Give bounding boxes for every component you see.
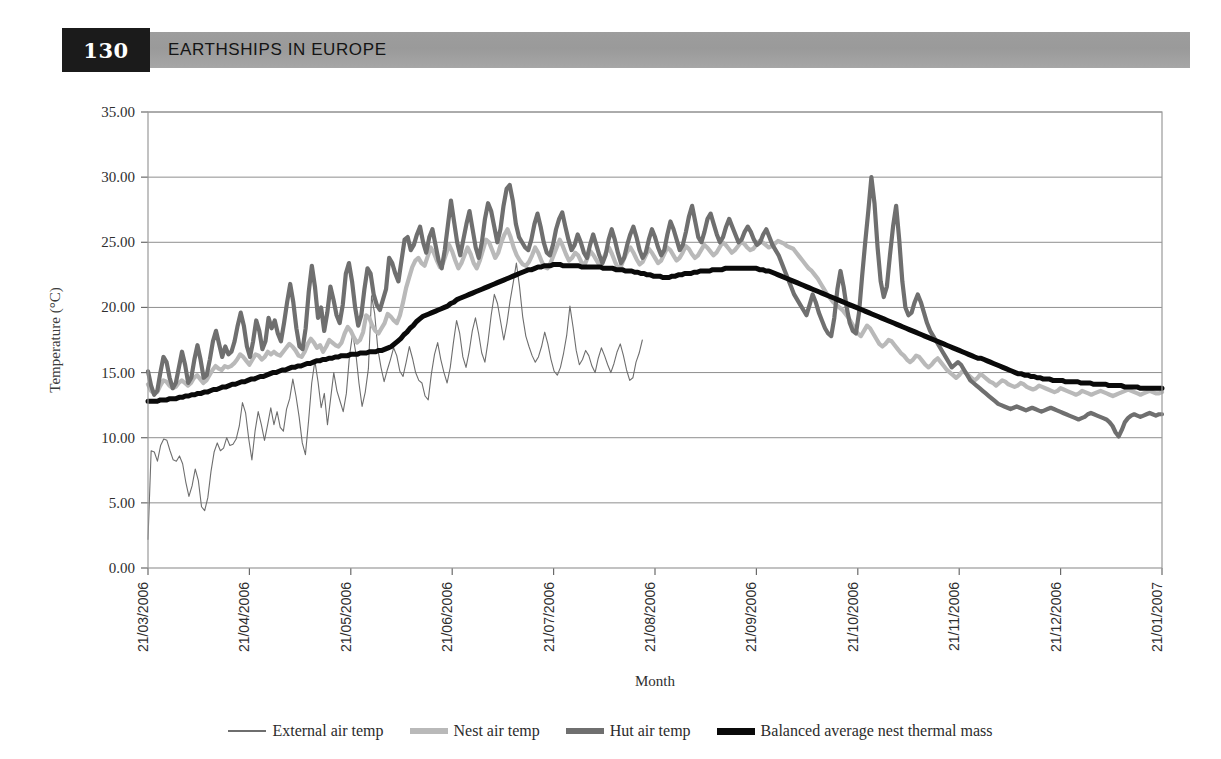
x-tick-label: 21/01/2007 <box>1149 582 1165 652</box>
book-page: 130 EARTHSHIPS IN EUROPE 0.005.0010.0015… <box>0 0 1221 759</box>
running-title: EARTHSHIPS IN EUROPE <box>168 32 387 68</box>
page-number-box: 130 <box>62 28 150 72</box>
y-tick-label: 35.00 <box>101 104 135 120</box>
x-tick-label: 21/10/2006 <box>845 582 861 652</box>
legend-swatch-icon <box>717 728 755 735</box>
y-tick-label: 0.00 <box>109 560 135 576</box>
legend-swatch-icon <box>566 728 604 734</box>
y-tick-label: 25.00 <box>101 234 135 250</box>
y-tick-label: 15.00 <box>101 365 135 381</box>
y-axis-tick-marks <box>141 112 148 568</box>
x-tick-label: 21/06/2006 <box>439 582 455 652</box>
x-axis-tick-labels: 21/03/200621/04/200621/05/200621/06/2006… <box>135 582 1165 652</box>
y-tick-label: 30.00 <box>101 169 135 185</box>
legend-item-2[interactable]: Hut air temp <box>566 722 691 740</box>
chart-legend: External air tempNest air tempHut air te… <box>0 716 1221 746</box>
x-axis-tick-marks <box>148 568 1162 575</box>
temperature-chart: 0.005.0010.0015.0020.0025.0030.0035.00 2… <box>0 80 1221 700</box>
y-tick-label: 20.00 <box>101 299 135 315</box>
x-tick-label: 21/07/2006 <box>541 582 557 652</box>
x-tick-label: 21/09/2006 <box>743 582 759 652</box>
chart-svg: 0.005.0010.0015.0020.0025.0030.0035.00 2… <box>0 80 1221 700</box>
legend-label: Hut air temp <box>610 722 691 740</box>
y-axis-title: Temperature (°C) <box>47 287 64 392</box>
legend-label: External air temp <box>272 722 383 740</box>
legend-item-0[interactable]: External air temp <box>228 722 383 740</box>
legend-item-3[interactable]: Balanced average nest thermal mass <box>717 722 993 740</box>
legend-label: Balanced average nest thermal mass <box>761 722 993 740</box>
x-tick-label: 21/08/2006 <box>642 582 658 652</box>
x-tick-label: 21/05/2006 <box>338 582 354 652</box>
y-axis-tick-labels: 0.005.0010.0015.0020.0025.0030.0035.00 <box>101 104 135 576</box>
x-tick-label: 21/03/2006 <box>135 582 151 652</box>
series-line-0 <box>148 263 642 539</box>
legend-swatch-icon <box>410 728 448 734</box>
legend-label: Nest air temp <box>454 722 540 740</box>
data-series-layer <box>148 177 1162 539</box>
x-tick-label: 21/04/2006 <box>236 582 252 652</box>
y-tick-label: 5.00 <box>109 495 135 511</box>
legend-swatch-icon <box>228 730 266 732</box>
x-tick-label: 21/12/2006 <box>1048 582 1064 652</box>
grid-lines <box>148 112 1162 503</box>
series-line-3 <box>148 264 1162 401</box>
page-number: 130 <box>83 38 128 63</box>
y-tick-label: 10.00 <box>101 430 135 446</box>
series-line-2 <box>148 177 1162 436</box>
legend-item-1[interactable]: Nest air temp <box>410 722 540 740</box>
x-tick-label: 21/11/2006 <box>946 582 962 651</box>
x-axis-title: Month <box>635 673 676 689</box>
